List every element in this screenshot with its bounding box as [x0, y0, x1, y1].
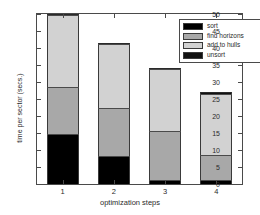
y-tick-mark-right-25 [238, 99, 242, 100]
y-tick-mark-right-10 [238, 150, 242, 151]
x-tick-mark-top-3 [165, 14, 166, 18]
y-tick-mark-right-15 [238, 133, 242, 134]
legend-item-sort: sort [183, 22, 258, 31]
legend-item-add-to-hulls: add to hulls [183, 41, 258, 50]
y-tick-label-15: 15 [212, 130, 220, 137]
y-axis-title: time per sector (secs.) [16, 48, 23, 168]
legend-label-unsort: unsort [207, 52, 225, 59]
y-tick-mark-right-30 [238, 82, 242, 83]
x-tick-mark-top-1 [63, 14, 64, 18]
y-tick-mark-right-20 [238, 116, 242, 117]
legend-swatch-sort [183, 23, 203, 30]
bar-segment-divider [47, 87, 79, 88]
y-tick-label-45: 45 [212, 28, 220, 35]
y-tick-mark-40 [37, 48, 41, 49]
bar-segment-find-horizons-3[interactable] [149, 132, 181, 181]
bar-stack-1[interactable] [47, 14, 79, 184]
x-tick-label-3: 3 [163, 188, 167, 196]
x-tick-label-4: 4 [214, 188, 218, 196]
y-tick-label-30: 30 [212, 79, 220, 86]
figure-canvas: sort find horizons add to hulls unsort 0… [0, 0, 260, 215]
bar-segment-add-to-hulls-3[interactable] [149, 70, 181, 132]
x-tick-label-1: 1 [61, 188, 65, 196]
bar-stack-3[interactable] [149, 68, 181, 184]
y-tick-label-5: 5 [216, 164, 220, 171]
y-tick-mark-right-50 [238, 14, 242, 15]
y-tick-mark-5 [37, 167, 41, 168]
chart-legend: sort find horizons add to hulls unsort [179, 19, 260, 63]
y-tick-mark-right-0 [238, 184, 242, 185]
x-tick-mark-top-2 [114, 14, 115, 18]
y-tick-mark-50 [37, 14, 41, 15]
y-tick-mark-20 [37, 116, 41, 117]
y-tick-mark-25 [37, 99, 41, 100]
bar-segment-divider [200, 94, 232, 95]
bar-segment-add-to-hulls-2[interactable] [98, 45, 130, 108]
y-tick-mark-right-5 [238, 167, 242, 168]
bar-segment-divider [149, 69, 181, 70]
y-tick-mark-15 [37, 133, 41, 134]
bar-segment-find-horizons-2[interactable] [98, 109, 130, 157]
y-tick-mark-right-35 [238, 65, 242, 66]
legend-swatch-add-to-hulls [183, 42, 203, 49]
y-tick-label-50: 50 [212, 11, 220, 18]
x-axis-title: optimization steps [0, 199, 260, 207]
bar-segment-sort-1[interactable] [47, 135, 79, 184]
y-tick-label-35: 35 [212, 62, 220, 69]
legend-item-unsort: unsort [183, 51, 258, 60]
y-tick-label-20: 20 [212, 113, 220, 120]
bar-stack-2[interactable] [98, 43, 130, 184]
bar-segment-divider [98, 108, 130, 109]
y-tick-label-10: 10 [212, 147, 220, 154]
bar-segment-divider [47, 134, 79, 135]
y-tick-mark-30 [37, 82, 41, 83]
y-tick-mark-45 [37, 31, 41, 32]
x-tick-mark-1 [63, 180, 64, 184]
legend-swatch-find-horizons [183, 33, 203, 40]
legend-item-find-horizons: find horizons [183, 32, 258, 41]
bar-segment-add-to-hulls-1[interactable] [47, 16, 79, 88]
bar-segment-find-horizons-1[interactable] [47, 88, 79, 135]
y-tick-mark-0 [37, 184, 41, 185]
x-tick-mark-3 [165, 180, 166, 184]
x-tick-label-2: 2 [112, 188, 116, 196]
bar-segment-divider [98, 44, 130, 45]
y-tick-label-40: 40 [212, 45, 220, 52]
legend-swatch-unsort [183, 52, 203, 59]
bar-segment-divider [200, 155, 232, 156]
y-tick-mark-35 [37, 65, 41, 66]
bar-segment-divider [98, 156, 130, 157]
y-tick-mark-10 [37, 150, 41, 151]
bar-segment-divider [149, 131, 181, 132]
x-tick-mark-2 [114, 180, 115, 184]
y-tick-label-25: 25 [212, 96, 220, 103]
